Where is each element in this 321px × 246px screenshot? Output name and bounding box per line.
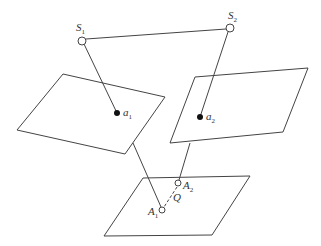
s2-point (226, 24, 234, 32)
label-Q: Q (173, 192, 181, 203)
right-image-plane (170, 68, 308, 143)
a1-point (114, 110, 120, 116)
stereo-projection-diagram: S1 S2 a1 a2 A1 A2 Q (0, 0, 321, 246)
A2-point (175, 180, 181, 186)
label-A1: A1 (148, 206, 158, 220)
s1-point (78, 37, 86, 45)
label-A2: A2 (183, 180, 193, 194)
diagram-canvas (0, 0, 321, 246)
A1-point (159, 207, 165, 213)
label-a2: a2 (206, 111, 215, 125)
a2-point (197, 114, 203, 120)
ray-a2-A2 (179, 143, 190, 180)
label-a1: a1 (123, 107, 132, 121)
label-s1: S1 (76, 22, 85, 36)
left-image-plane (17, 74, 165, 154)
label-s2: S2 (228, 10, 237, 24)
baseline (86, 29, 226, 39)
